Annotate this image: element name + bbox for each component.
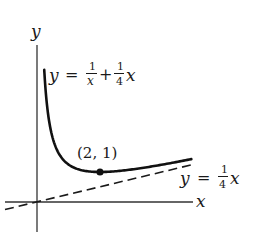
svg-text:y: y xyxy=(179,168,190,188)
point-marker xyxy=(96,168,103,175)
svg-text:=: = xyxy=(65,65,78,84)
function-graph: y x (2, 1) y = 1 x + 1 4 x y = 1 4 x xyxy=(0,0,255,244)
svg-text:1: 1 xyxy=(221,163,228,176)
curve-equation-label: y = 1 x + 1 4 x xyxy=(48,60,136,88)
svg-text:y: y xyxy=(48,65,59,85)
svg-text:=: = xyxy=(197,168,210,187)
y-axis-label: y xyxy=(30,21,41,41)
svg-text:1: 1 xyxy=(89,60,96,73)
svg-text:x: x xyxy=(126,65,136,85)
svg-text:4: 4 xyxy=(219,178,226,191)
point-label: (2, 1) xyxy=(77,144,117,162)
svg-text:x: x xyxy=(230,168,240,188)
asymptote-equation-label: y = 1 4 x xyxy=(179,163,240,191)
svg-text:x: x xyxy=(87,74,94,88)
svg-text:+: + xyxy=(99,65,112,84)
svg-text:4: 4 xyxy=(116,75,123,88)
x-axis-label: x xyxy=(196,191,206,211)
svg-text:1: 1 xyxy=(117,60,124,73)
